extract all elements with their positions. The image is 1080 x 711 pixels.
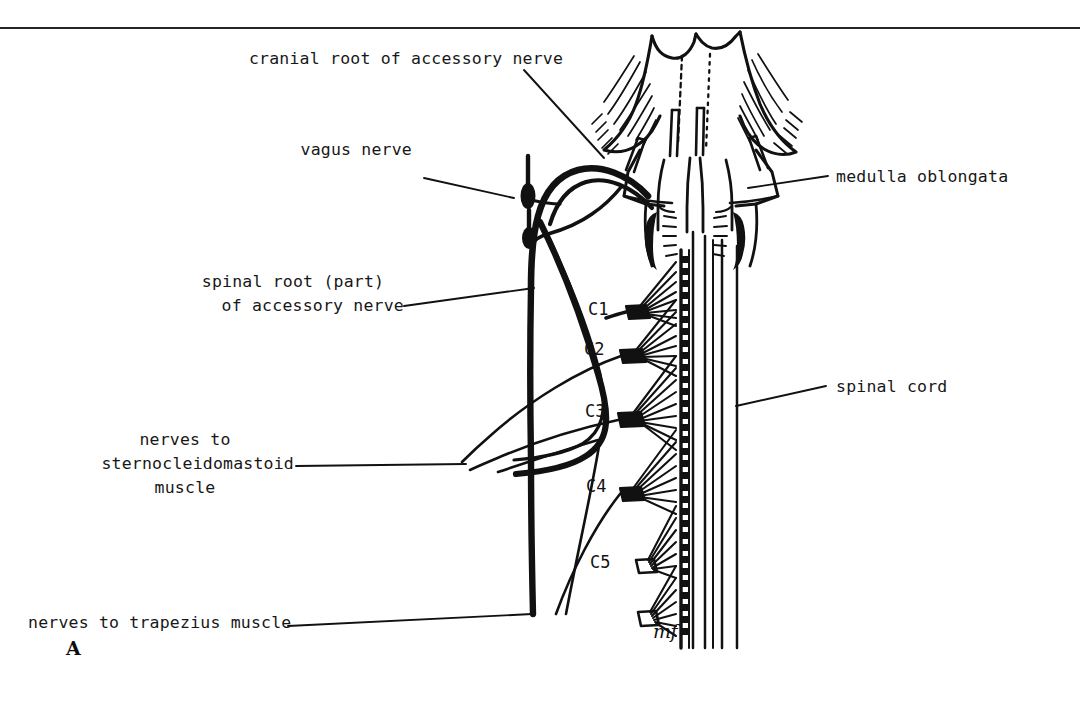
segment-label-c2: C2 <box>584 339 604 359</box>
label-nerves-to-trapezius-muscle: nerves to trapezius muscle <box>28 611 288 635</box>
cerebellum-midline-dots <box>706 54 710 150</box>
artist-signature: mf <box>653 620 677 642</box>
segment-label-c1: C1 <box>588 299 608 319</box>
medulla-pyramids <box>658 158 732 232</box>
leader-spinal-cord <box>736 386 826 406</box>
label-spinal-root-line2: of accessory nerve <box>178 294 404 318</box>
nerve-root-c1 <box>606 262 676 326</box>
label-spinal-cord: spinal cord <box>836 375 947 399</box>
cranial-root-accessory-nerve <box>531 168 652 288</box>
label-medulla-oblongata: medulla oblongata <box>836 165 1008 189</box>
spinal-cord-lines <box>693 232 737 648</box>
figure-container: cranial root of accessory nerve vagus ne… <box>0 0 1080 711</box>
cerebellum-hatching-left <box>604 56 656 144</box>
leader-trapezius <box>288 614 532 626</box>
label-scm-line1: nerves to <box>74 428 296 452</box>
anatomy-line-art <box>0 0 1080 711</box>
medulla-olivary-striations <box>663 216 727 256</box>
vagus-inferior-ganglion <box>522 227 536 249</box>
label-scm-line3: muscle <box>74 476 296 500</box>
leader-scm <box>296 464 466 466</box>
leader-spinal-root <box>404 288 534 306</box>
segment-label-c3: C3 <box>585 401 605 421</box>
segment-label-c4: C4 <box>586 476 606 496</box>
panel-letter-a: A <box>66 637 81 659</box>
nerve-root-c3 <box>618 356 676 450</box>
leader-cranial-root <box>524 70 604 158</box>
label-vagus-nerve: vagus nerve <box>200 138 412 162</box>
vagus-superior-ganglion <box>521 183 536 209</box>
nerve-root-c4 <box>620 430 676 514</box>
label-cranial-root-of-accessory-nerve: cranial root of accessory nerve <box>206 47 606 71</box>
label-spinal-root-line1: spinal root (part) <box>178 270 408 294</box>
medulla-olivary-beads <box>645 212 746 270</box>
segment-label-c5: C5 <box>590 552 610 572</box>
cerebellum-outline <box>604 32 796 154</box>
leader-medulla <box>748 176 828 188</box>
label-scm-line2: sternocleidomastoid <box>74 452 294 476</box>
nerve-root-c5 <box>636 506 676 578</box>
denticulate-ligament-beads <box>682 256 689 635</box>
leader-vagus <box>424 178 514 198</box>
